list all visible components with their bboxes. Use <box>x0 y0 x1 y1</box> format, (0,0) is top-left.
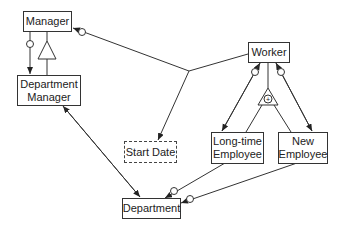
attribute-label: Start Date <box>126 146 176 159</box>
entity-manager[interactable]: Manager <box>23 11 72 32</box>
entity-department[interactable]: Department <box>122 198 181 219</box>
entity-label: Long-time Employee <box>212 135 263 161</box>
er-diagram: + Manager Department Manager Worker Star… <box>0 0 344 231</box>
entity-new-employee[interactable]: New Employee <box>278 132 328 164</box>
entity-label: Worker <box>251 46 286 59</box>
newemp-to-department-line <box>181 163 297 203</box>
entity-long-time-employee[interactable]: Long-time Employee <box>211 132 264 164</box>
plus-marker-icon: + <box>266 96 270 103</box>
attribute-start-date[interactable]: Start Date <box>124 141 177 163</box>
entity-label: Manager <box>26 15 69 28</box>
startdate-to-manager-line <box>73 28 189 71</box>
startdate-to-worker-line <box>189 54 248 71</box>
junction-to-startdate-line <box>158 71 189 140</box>
entity-label: Department Manager <box>18 78 80 104</box>
optional-circle-icon <box>27 41 34 48</box>
entity-worker[interactable]: Worker <box>248 42 290 63</box>
generalization-triangle-icon <box>38 41 56 59</box>
entity-label: New Employee <box>279 135 328 161</box>
entity-label: Department <box>123 202 180 215</box>
entity-department-manager[interactable]: Department Manager <box>17 75 81 106</box>
connector-layer: + <box>0 0 344 231</box>
